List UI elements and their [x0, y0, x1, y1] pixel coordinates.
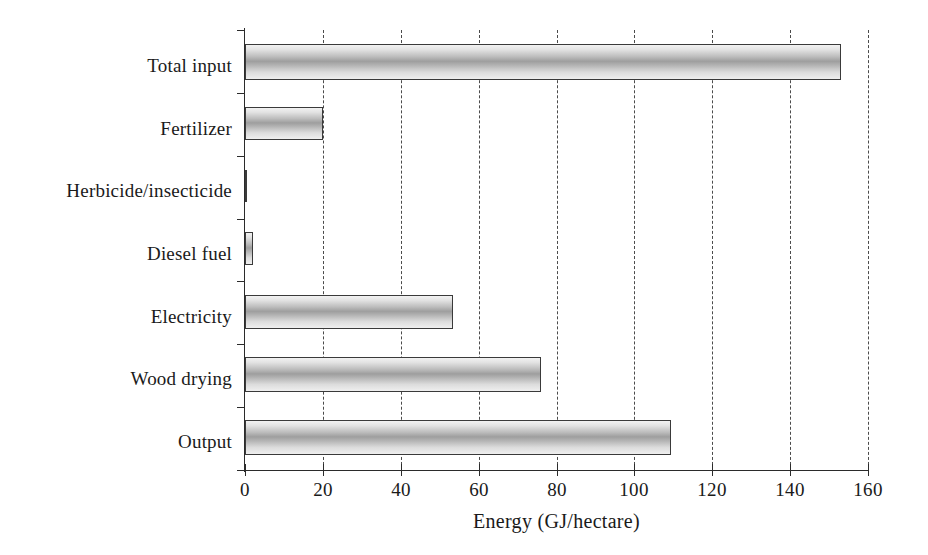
x-axis-tick-label-60: 60	[449, 478, 509, 502]
x-axis-tick-label-160: 160	[838, 478, 898, 502]
gridline-80	[557, 30, 558, 470]
x-axis-tick-label-0: 0	[215, 478, 275, 502]
x-axis-tick-120	[712, 464, 713, 476]
x-axis-tick-label-80: 80	[527, 478, 587, 502]
y-axis-label-diesel-fuel: Diesel fuel	[0, 243, 232, 265]
gridline-140	[790, 30, 791, 470]
plot-area	[245, 30, 868, 470]
y-axis-label-total-input: Total input	[0, 55, 232, 77]
y-axis-tick	[237, 470, 245, 471]
bar-total-input	[245, 44, 841, 80]
x-axis-tick-label-140: 140	[760, 478, 820, 502]
x-axis-tick-0	[245, 464, 246, 476]
bar-fertilizer	[245, 107, 323, 140]
x-axis-tick-20	[323, 464, 324, 476]
x-axis-tick-label-20: 20	[293, 478, 353, 502]
chart-figure: Total input Fertilizer Herbicide/insecti…	[0, 0, 928, 555]
y-axis-label-electricity: Electricity	[0, 306, 232, 328]
bar-diesel-fuel	[245, 232, 253, 265]
y-axis-label-herbicide-insecticide: Herbicide/insecticide	[0, 180, 232, 202]
gridline-120	[712, 30, 713, 470]
x-axis-tick-label-120: 120	[682, 478, 742, 502]
y-axis-label-fertilizer: Fertilizer	[0, 118, 232, 140]
x-axis-tick-100	[634, 464, 635, 476]
y-axis-tick	[237, 30, 245, 31]
y-axis-tick	[237, 407, 245, 408]
bar-herbicide-insecticide	[245, 170, 247, 202]
y-axis-tick	[237, 281, 245, 282]
y-axis-line	[244, 28, 245, 472]
gridline-100	[634, 30, 635, 470]
gridline-160	[868, 30, 869, 470]
x-axis-tick-160	[868, 464, 869, 476]
bar-electricity	[245, 295, 453, 329]
x-axis-tick-60	[479, 464, 480, 476]
bar-output	[245, 420, 671, 455]
y-axis-tick	[237, 344, 245, 345]
x-axis-tick-40	[401, 464, 402, 476]
y-axis-tick	[237, 93, 245, 94]
y-axis-tick	[237, 156, 245, 157]
x-axis-tick-140	[790, 464, 791, 476]
x-axis-tick-label-40: 40	[371, 478, 431, 502]
x-axis-tick-label-100: 100	[604, 478, 664, 502]
bar-wood-drying	[245, 357, 541, 392]
x-axis-tick-80	[557, 464, 558, 476]
gridline-20	[323, 30, 324, 470]
gridline-60	[479, 30, 480, 470]
x-axis-title: Energy (GJ/hectare)	[245, 508, 868, 534]
y-axis-tick	[237, 219, 245, 220]
y-axis-label-output: Output	[0, 431, 232, 453]
gridline-40	[401, 30, 402, 470]
y-axis-label-wood-drying: Wood drying	[0, 368, 232, 390]
